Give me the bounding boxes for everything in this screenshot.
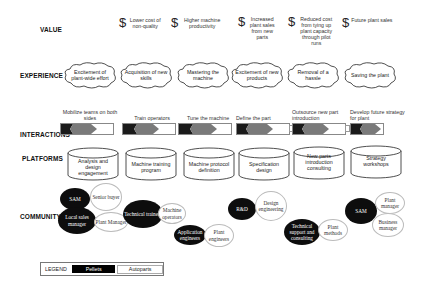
community-senior-buyer: Senior buyer: [90, 183, 122, 211]
platform-cylinder: Strategy workshops: [349, 145, 403, 179]
platform-cylinder: Machine training program: [124, 147, 178, 181]
experience-cloud: Removal of a hassle: [285, 61, 341, 89]
community-plant-engineers: Plant engineers: [204, 224, 234, 247]
experience-cloud: Mastering the machine: [175, 61, 231, 89]
community-plant-manager-2: Plant manager: [375, 192, 405, 214]
value-item: $ Future plant sales: [342, 17, 401, 29]
legend-autoparts: Autoparts: [117, 265, 163, 274]
row-label-platforms: PLATFORMS: [22, 155, 63, 162]
interaction-item: Develop future strategy for plant: [350, 103, 410, 135]
legend-pellets: Pellets: [72, 265, 116, 273]
value-item: $ Increased plant sales from new parts: [238, 16, 277, 40]
interaction-item: Mobilize teams on both sides: [60, 103, 120, 135]
experience-cloud: Saving the plant: [342, 61, 398, 89]
community-design-engineering: Design engineering: [255, 191, 287, 221]
community-plant-methods: Plant methods: [318, 219, 348, 241]
value-item: $ Reduced cost from tying up plant capac…: [288, 16, 335, 46]
experience-cloud: Excitement of new products: [229, 61, 285, 89]
community-rnd: R&D: [228, 198, 256, 220]
interaction-item: Train operators: [122, 103, 182, 135]
dollar-icon: $: [171, 17, 178, 29]
dollar-icon: $: [288, 16, 295, 28]
progress-bar: [292, 123, 346, 135]
platform-cylinder: Specification design: [237, 147, 291, 181]
experience-cloud: Excitement of plant-wide effort: [62, 61, 118, 89]
interaction-item: Define the part: [236, 103, 296, 135]
legend-label: LEGEND: [41, 266, 72, 272]
value-item: $ Lower cost of non-quality: [119, 17, 162, 29]
row-label-value: VALUE: [40, 26, 62, 33]
experience-cloud: Acquisition of new skills: [118, 61, 174, 89]
value-item: $ Higher machine productivity: [171, 17, 224, 29]
dollar-icon: $: [342, 17, 349, 29]
progress-bar: [350, 123, 384, 135]
platform-cylinder: Analysis and design engagement: [66, 147, 120, 181]
progress-bar: [122, 123, 176, 135]
progress-bar: [178, 123, 232, 135]
platform-cylinder: Machine protocol definition: [182, 147, 236, 181]
progress-bar: [60, 123, 114, 135]
community-business-manager: Business manager: [372, 213, 404, 237]
legend: LEGEND Pellets Autoparts: [40, 262, 164, 276]
interaction-item: Tune the machine: [178, 103, 238, 135]
community-technical-support: Technical support and consulting: [284, 219, 320, 245]
dollar-icon: $: [238, 16, 245, 28]
progress-bar: [236, 123, 290, 135]
row-label-experience: EXPERIENCE: [20, 72, 63, 79]
dollar-icon: $: [119, 17, 126, 29]
interaction-item: Outsource new part introduction: [292, 103, 352, 135]
community-application-engineers: Application engineers: [174, 225, 206, 245]
row-label-community: COMMUNITY: [20, 213, 61, 220]
community-machine-operators: Machine operators: [158, 203, 186, 224]
community-local-sales-manager: Local sales manager: [58, 207, 96, 234]
platform-cylinder: New parts introduction consulting: [292, 146, 346, 180]
community-technical-trainers: Technical trainers: [123, 200, 163, 228]
